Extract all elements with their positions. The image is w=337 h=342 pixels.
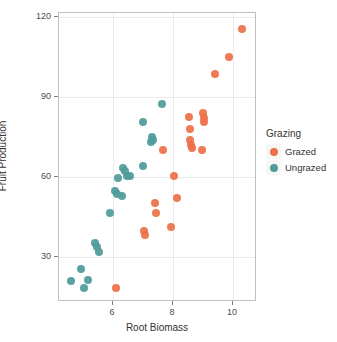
scatter-plot-figure: Fruit Production Root Biomass Grazing Gr… (0, 0, 337, 342)
data-point-ungrazed (149, 136, 157, 144)
data-point-grazed (186, 125, 194, 133)
y-tick-mark (54, 176, 58, 177)
y-axis-title: Fruit Production (0, 121, 8, 192)
x-axis-title: Root Biomass (58, 322, 256, 333)
y-tick-label: 60 (18, 171, 51, 181)
legend-label-grazed: Grazed (285, 146, 316, 157)
x-tick-label: 6 (109, 307, 114, 317)
data-point-grazed (185, 113, 193, 121)
y-gridline (59, 177, 255, 178)
legend: Grazing Grazed Ungrazed (266, 128, 336, 176)
legend-swatch-ungrazed (266, 160, 281, 175)
data-point-grazed (152, 209, 160, 217)
legend-swatch-grazed (266, 144, 281, 159)
x-tick-mark (172, 301, 173, 305)
legend-item-grazed[interactable]: Grazed (266, 144, 336, 159)
legend-label-ungrazed: Ungrazed (285, 162, 326, 173)
y-gridline (59, 257, 255, 258)
legend-title: Grazing (266, 128, 336, 139)
legend-item-ungrazed[interactable]: Ungrazed (266, 160, 336, 175)
data-point-grazed (170, 172, 178, 180)
data-point-grazed (188, 144, 196, 152)
data-point-ungrazed (106, 209, 114, 217)
data-point-ungrazed (139, 162, 147, 170)
data-point-ungrazed (158, 100, 166, 108)
y-tick-mark (54, 16, 58, 17)
x-tick-mark (112, 301, 113, 305)
data-point-ungrazed (67, 277, 75, 285)
data-point-ungrazed (114, 174, 122, 182)
y-gridline (59, 97, 255, 98)
data-point-ungrazed (77, 265, 85, 273)
y-tick-label: 90 (18, 91, 51, 101)
data-point-ungrazed (95, 248, 103, 256)
data-point-ungrazed (80, 284, 88, 292)
y-tick-label: 30 (18, 251, 51, 261)
plot-panel (58, 12, 256, 301)
data-point-grazed (167, 223, 175, 231)
x-tick-label: 8 (169, 307, 174, 317)
y-tick-label: 120 (18, 11, 51, 21)
data-point-grazed (151, 199, 159, 207)
x-tick-mark (232, 301, 233, 305)
y-gridline (59, 17, 255, 18)
data-point-ungrazed (139, 118, 147, 126)
data-point-ungrazed (126, 172, 134, 180)
data-point-grazed (173, 194, 181, 202)
data-point-grazed (211, 70, 219, 78)
y-tick-mark (54, 96, 58, 97)
data-point-grazed (159, 146, 167, 154)
data-point-grazed (225, 53, 233, 61)
data-point-ungrazed (84, 276, 92, 284)
y-tick-mark (54, 256, 58, 257)
data-point-grazed (198, 146, 206, 154)
data-point-grazed (112, 284, 120, 292)
data-point-grazed (238, 25, 246, 33)
data-point-grazed (141, 231, 149, 239)
data-point-ungrazed (118, 192, 126, 200)
x-tick-label: 10 (227, 307, 237, 317)
data-point-grazed (200, 118, 208, 126)
